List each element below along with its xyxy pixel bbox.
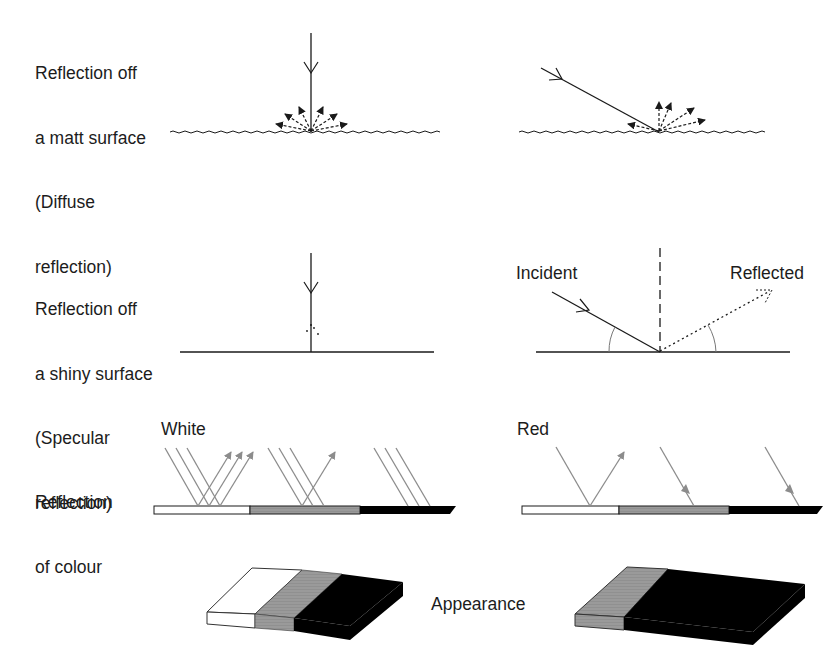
white-light-strip-diagram (154, 448, 456, 514)
black-segment-rays (374, 448, 430, 506)
arrowhead-icon (576, 299, 589, 312)
diffuse-oblique-diagram (519, 68, 765, 133)
appearance-block-red-light (575, 567, 805, 645)
black-segment (729, 506, 823, 514)
colour-strip-2 (522, 506, 823, 514)
grey-segment (619, 506, 729, 514)
specular-oblique-diagram (536, 248, 790, 352)
red-light-strip-diagram (522, 447, 823, 514)
colour-strip (154, 506, 456, 514)
black-segment (360, 506, 456, 514)
white-segment (522, 506, 619, 514)
white-segment (154, 506, 250, 514)
appearance-block-white-light (207, 568, 403, 640)
white-front (207, 612, 255, 628)
grey-segment (250, 506, 360, 514)
white-segment-rays (165, 448, 253, 506)
scattered-rays-oblique (628, 102, 705, 131)
reflection-angle-arc (708, 325, 716, 352)
matt-surface-line-2 (519, 131, 765, 133)
incident-ray-oblique (541, 68, 659, 132)
specular-normal-diagram (180, 253, 434, 352)
grey-front (575, 614, 624, 630)
incidence-angle-arc (609, 327, 615, 352)
reflected-arrowhead-icon (756, 290, 772, 303)
diffuse-normal-diagram (170, 33, 440, 133)
reflection-diagram (0, 0, 837, 656)
matt-surface-line (170, 131, 440, 133)
grey-segment-rays (268, 448, 335, 506)
incident-ray (552, 292, 660, 352)
reflected-dotted-arrowhead (306, 324, 319, 335)
red-rays (556, 447, 799, 506)
